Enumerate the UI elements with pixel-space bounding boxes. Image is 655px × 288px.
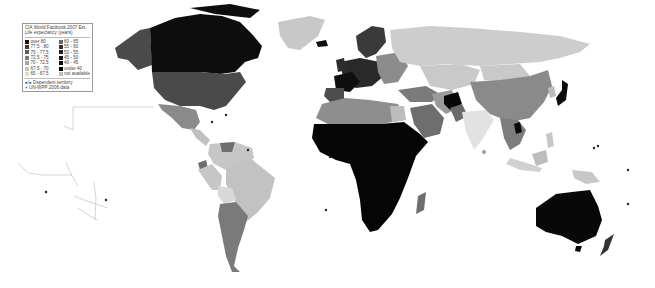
region-iceland <box>316 40 328 47</box>
region-alaska <box>115 28 152 70</box>
legend-label: not available <box>64 71 90 76</box>
region-usa <box>152 72 246 110</box>
legend-swatch <box>25 50 29 54</box>
region-southeast-asia <box>500 118 526 150</box>
legend-title-metric: Life expectancy (years) <box>25 30 90 35</box>
region-mexico <box>158 104 200 130</box>
legend-swatch <box>25 61 29 65</box>
legend-swatch <box>25 45 29 49</box>
legend-swatch <box>59 45 63 49</box>
region-tasmania <box>575 246 582 252</box>
region-australia <box>536 190 602 244</box>
legend-swatch <box>59 61 63 65</box>
legend-swatch <box>59 72 63 76</box>
legend-label: 65 - 67.5 <box>31 71 49 76</box>
legend-entry: not available <box>59 71 91 76</box>
world-map <box>0 0 655 288</box>
pacific-territory-lines <box>18 107 154 220</box>
region-russia <box>390 26 590 66</box>
legend-swatch <box>59 50 63 54</box>
legend-entries: over 80 60 - 65 77.5 - 80 55 - 60 75 - 7… <box>25 39 90 77</box>
map-legend: CIA World Factbook 2007 Est. Life expect… <box>22 23 93 92</box>
legend-swatch <box>59 56 63 60</box>
legend-title: CIA World Factbook 2007 Est. Life expect… <box>25 25 90 38</box>
region-japan <box>556 80 568 106</box>
region-central-asia <box>420 64 480 90</box>
region-korea <box>548 86 556 98</box>
region-new-guinea <box>572 170 600 184</box>
region-uk <box>336 58 346 72</box>
legend-entry: 65 - 67.5 <box>25 71 57 76</box>
region-new-zealand <box>600 234 614 256</box>
legend-swatch <box>59 67 63 71</box>
region-scandinavia <box>356 26 386 58</box>
legend-unwpp-note: + UN-WPP 2006 data <box>25 85 90 90</box>
region-canada <box>150 14 262 74</box>
legend-footnotes: ●/● Dependent territory + UN-WPP 2006 da… <box>25 78 90 91</box>
region-philippines <box>546 132 554 148</box>
region-india <box>462 110 494 150</box>
region-egypt <box>390 106 406 122</box>
region-central-america <box>190 128 210 146</box>
legend-swatch <box>25 56 29 60</box>
region-borneo <box>532 150 548 166</box>
region-madagascar <box>416 192 426 214</box>
region-sri-lanka <box>482 150 486 154</box>
region-sub-saharan-africa <box>312 122 428 232</box>
legend-swatch <box>59 40 63 44</box>
region-argentina-chile <box>218 202 248 272</box>
legend-swatch <box>25 40 29 44</box>
legend-swatch <box>25 72 29 76</box>
legend-swatch <box>25 67 29 71</box>
